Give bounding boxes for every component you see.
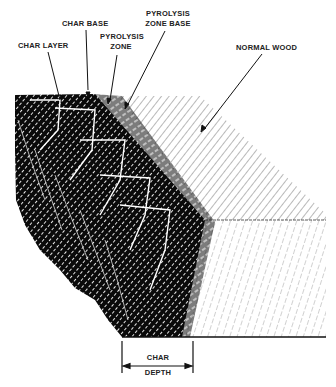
normal-wood-leader	[205, 54, 262, 128]
char-layer-label: CHAR LAYER	[18, 41, 68, 51]
pyrolysis-zone-label-line1: PYROLYSIS	[100, 32, 142, 42]
char-depth-label-line1: CHAR	[137, 353, 179, 363]
char-layer-leader	[48, 52, 60, 100]
pyrolysis-zone-base-label: PYROLYSIS ZONE BASE	[145, 9, 191, 29]
char-depth-left-arrowhead	[123, 364, 130, 369]
pyrolysis-zone-base-label-line1: PYROLYSIS	[145, 9, 191, 19]
pyrolysis-zone-base-label-line2: ZONE BASE	[145, 19, 191, 29]
char-base-label: CHAR BASE	[62, 19, 108, 29]
char-base-leader	[86, 30, 88, 90]
pyrolysis-zone-label-line2: ZONE	[100, 42, 142, 52]
pyrolysis-zone-label: PYROLYSIS ZONE	[100, 32, 142, 52]
pyrolysis-zone-leader	[110, 55, 117, 100]
char-depth-right-arrowhead	[185, 364, 192, 369]
wood-char-illustration	[0, 0, 336, 387]
normal-wood-label: NORMAL WOOD	[236, 43, 297, 53]
char-depth-label-line2: DEPTH	[137, 368, 179, 378]
